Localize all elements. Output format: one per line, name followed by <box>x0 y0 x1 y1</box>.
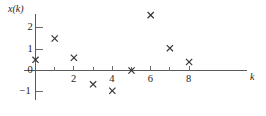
plot-svg <box>0 0 266 116</box>
x-tick-label: 8 <box>186 74 191 85</box>
y-axis-title: x(k) <box>8 4 24 14</box>
data-point-marker <box>90 81 96 87</box>
axes-group <box>24 14 247 100</box>
x-tick-label: 4 <box>109 74 114 85</box>
x-axis-ticks <box>55 66 189 71</box>
y-axis-ticks <box>36 28 43 92</box>
data-point-marker <box>109 88 115 94</box>
data-point-marker <box>148 12 154 18</box>
y-tick-label: 2 <box>28 22 33 33</box>
data-point-marker <box>167 45 173 51</box>
data-point-marker <box>71 55 77 61</box>
y-tick-label: 1 <box>28 44 33 55</box>
y-tick-label: −1 <box>20 86 31 97</box>
x-tick-label: 2 <box>71 74 76 85</box>
x-tick-label: 6 <box>148 74 153 85</box>
data-point-marker <box>186 59 192 65</box>
figure-canvas: x(k) k 2468−1012 <box>0 0 266 116</box>
data-point-marker <box>52 35 58 41</box>
scatter-plot <box>0 0 266 116</box>
x-axis-title: k <box>250 72 254 82</box>
y-tick-label: 0 <box>28 65 33 76</box>
